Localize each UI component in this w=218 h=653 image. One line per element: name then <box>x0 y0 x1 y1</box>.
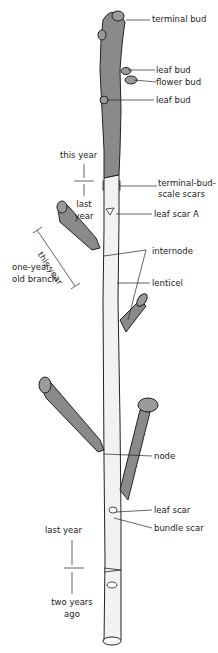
terminal-bud <box>112 11 124 21</box>
label-terminal-bud-scale-scars-1: terminal-bud- <box>158 178 216 188</box>
label-flower-bud: flower bud <box>156 77 201 87</box>
label-leaf-bud-upper: leaf bud <box>156 65 191 75</box>
label-leaf-scar-a: leaf scar A <box>154 209 199 219</box>
label-bundle-scar: bundle scar <box>154 523 204 533</box>
bud-side <box>98 30 106 40</box>
label-lenticel: lenticel <box>152 278 183 288</box>
label-leaf-scar: leaf scar <box>154 505 190 515</box>
label-last-year-main-1: last <box>74 199 94 209</box>
leaf-bud-lower <box>100 96 108 104</box>
label-this-year-main: this year <box>60 150 97 160</box>
twig-diagram: terminal bud leaf bud flower bud leaf bu… <box>0 0 218 653</box>
leaf-bud-upper <box>121 68 131 75</box>
label-internode: internode <box>152 246 193 256</box>
label-leaf-bud-lower: leaf bud <box>156 95 191 105</box>
label-two-years-ago-2: ago <box>42 609 102 619</box>
label-one-year-old-branch-1: one-year- <box>12 262 52 272</box>
label-last-year-lower: last year <box>45 525 82 535</box>
label-terminal-bud-scale-scars-2: scale scars <box>158 189 205 199</box>
cut-end <box>103 637 121 645</box>
label-terminal-bud: terminal bud <box>152 14 206 24</box>
label-node: node <box>154 451 175 461</box>
label-two-years-ago-1: two years <box>42 597 102 607</box>
label-last-year-main-2: year <box>72 211 96 221</box>
label-one-year-old-branch-2: old branch <box>12 274 57 284</box>
